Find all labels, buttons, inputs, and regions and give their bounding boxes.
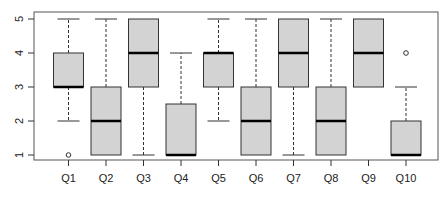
box-plot: 12345 Q1Q2Q3Q4Q5Q6Q7Q8Q9Q10: [0, 0, 448, 198]
box-q6: [241, 19, 271, 155]
x-tick-label: Q6: [249, 172, 264, 184]
x-axis: Q1Q2Q3Q4Q5Q6Q7Q8Q9Q10: [61, 160, 416, 184]
boxes: [54, 19, 422, 157]
outlier-point: [404, 51, 409, 56]
box-iqr: [54, 53, 84, 87]
x-tick-label: Q8: [324, 172, 339, 184]
x-tick-label: Q3: [136, 172, 151, 184]
x-tick-label: Q10: [396, 172, 417, 184]
box-q4: [166, 53, 196, 155]
outlier-point: [66, 153, 71, 158]
y-tick-label: 2: [13, 118, 25, 124]
x-tick-label: Q4: [174, 172, 189, 184]
box-q2: [91, 19, 121, 155]
y-tick-label: 1: [13, 152, 25, 158]
x-tick-label: Q2: [99, 172, 114, 184]
x-tick-label: Q7: [286, 172, 301, 184]
box-q10: [391, 51, 421, 155]
box-iqr: [204, 53, 234, 87]
x-tick-label: Q1: [61, 172, 76, 184]
box-q3: [129, 19, 159, 155]
box-q8: [316, 19, 346, 155]
y-axis: 12345: [13, 16, 34, 158]
box-q1: [54, 19, 84, 157]
box-iqr: [166, 104, 196, 155]
box-q9: [354, 19, 384, 87]
y-tick-label: 4: [13, 50, 25, 56]
box-iqr: [391, 121, 421, 155]
box-q5: [204, 19, 234, 121]
y-tick-label: 3: [13, 84, 25, 90]
y-tick-label: 5: [13, 16, 25, 22]
box-q7: [279, 19, 309, 155]
x-tick-label: Q5: [211, 172, 226, 184]
x-tick-label: Q9: [361, 172, 376, 184]
